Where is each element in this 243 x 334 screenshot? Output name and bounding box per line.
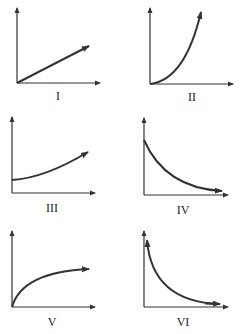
graph-label: I xyxy=(56,89,60,103)
curve-parabolic xyxy=(150,12,201,84)
curve-exponential-decay xyxy=(144,140,222,191)
graph-5: V xyxy=(12,231,95,329)
graph-6: VI xyxy=(144,231,228,329)
graph-label: III xyxy=(46,201,58,215)
graphs-figure: I II III IV V VI xyxy=(0,0,243,334)
curve-increasing-offset xyxy=(12,152,88,180)
curve-square-root xyxy=(12,269,89,307)
curve-linear xyxy=(17,46,89,83)
graph-3: III xyxy=(12,117,95,215)
graph-label: IV xyxy=(177,203,190,217)
graph-4: IV xyxy=(144,118,228,217)
graph-label: II xyxy=(188,90,196,104)
graph-label: V xyxy=(48,315,57,329)
graph-2: II xyxy=(150,8,233,104)
curve-hyperbolic-right-arrow xyxy=(205,304,220,305)
graph-1: I xyxy=(17,8,100,103)
graph-label: VI xyxy=(177,315,190,329)
curve-hyperbolic xyxy=(147,240,220,304)
